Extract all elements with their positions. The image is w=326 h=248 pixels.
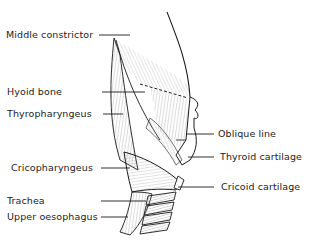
anatomy-diagram: Middle constrictor Hyoid bone Thyrophary… xyxy=(0,0,326,248)
label-upper-oesophagus: Upper oesophagus xyxy=(7,211,98,222)
label-thyropharyngeus: Thyropharyngeus xyxy=(7,108,92,119)
label-oblique-line: Oblique line xyxy=(218,128,276,139)
label-thyroid-cartilage: Thyroid cartilage xyxy=(220,151,302,162)
cricopharyngeus-shape xyxy=(124,152,178,192)
label-cricoid-cartilage: Cricoid cartilage xyxy=(221,181,300,192)
label-hyoid-bone: Hyoid bone xyxy=(7,86,62,97)
label-middle-constrictor: Middle constrictor xyxy=(6,29,93,40)
label-cricopharyngeus: Cricopharyngeus xyxy=(11,162,93,173)
label-trachea: Trachea xyxy=(7,195,45,206)
middle-constrictor-shape xyxy=(114,12,190,97)
